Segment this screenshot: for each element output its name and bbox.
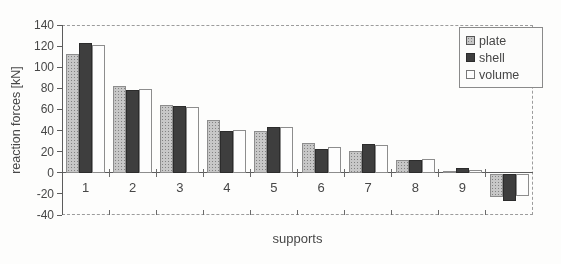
legend-item-plate: plate	[466, 32, 536, 49]
bar-plate-support-7	[349, 151, 362, 173]
y-axis-tick	[57, 67, 62, 68]
y-tick-label: 100	[16, 60, 54, 74]
x-axis-bottom-tick	[203, 210, 204, 215]
bar-plate-support-9	[443, 171, 456, 173]
x-axis-tick	[344, 169, 345, 177]
y-tick-label: 40	[16, 124, 54, 138]
legend-item-volume: volume	[466, 66, 536, 83]
bar-shell-support-6	[315, 149, 328, 173]
x-axis-tick	[203, 169, 204, 177]
y-axis-tick	[57, 130, 62, 131]
y-tick-label: -40	[16, 208, 54, 222]
x-axis-bottom-tick	[250, 210, 251, 215]
x-axis-bottom-tick	[109, 210, 110, 215]
bar-shell-support-10	[503, 174, 516, 201]
bar-volume-support-2	[139, 89, 152, 172]
bar-plate-support-5	[254, 131, 267, 173]
bar-volume-support-6	[328, 147, 341, 172]
bar-shell-support-7	[362, 144, 375, 173]
bar-volume-support-1	[92, 45, 105, 173]
bar-volume-support-10	[516, 174, 529, 196]
x-axis-bottom-tick	[156, 210, 157, 215]
y-tick-label: -20	[16, 187, 54, 201]
bar-shell-support-4	[220, 131, 233, 173]
y-axis-tick	[57, 88, 62, 89]
bar-volume-support-7	[375, 145, 388, 172]
bar-plate-support-3	[160, 105, 173, 173]
y-tick-label: 0	[16, 166, 54, 180]
y-tick-label: 80	[16, 81, 54, 95]
y-tick-label: 120	[16, 39, 54, 53]
x-tick-label: 3	[169, 181, 191, 195]
y-axis-tick	[57, 25, 62, 26]
y-axis-tick	[57, 193, 62, 194]
plate-swatch-icon	[466, 36, 475, 45]
bar-volume-support-8	[422, 159, 435, 173]
bar-shell-support-5	[267, 127, 280, 172]
x-axis-tick	[109, 169, 110, 177]
x-axis-bottom-tick	[485, 210, 486, 215]
y-axis-line	[62, 25, 63, 215]
bar-volume-support-5	[280, 127, 293, 172]
y-tick-label: 60	[16, 102, 54, 116]
x-axis-title: supports	[62, 231, 533, 246]
x-tick-label: 1	[75, 181, 97, 195]
bar-plate-support-6	[302, 143, 315, 173]
x-tick-label: 4	[216, 181, 238, 195]
x-tick-label: 9	[451, 181, 473, 195]
legend-label-plate: plate	[479, 34, 506, 48]
x-tick-label: 2	[122, 181, 144, 195]
x-axis-tick	[156, 169, 157, 177]
bar-shell-support-3	[173, 106, 186, 173]
legend-label-volume: volume	[479, 68, 519, 82]
x-tick-label: 8	[404, 181, 426, 195]
bar-volume-support-9	[469, 170, 482, 173]
y-axis-tick	[57, 109, 62, 110]
bar-plate-support-8	[396, 160, 409, 173]
legend-label-shell: shell	[479, 51, 505, 65]
shell-swatch-icon	[466, 53, 475, 62]
x-axis-tick	[485, 169, 486, 177]
x-axis-tick	[391, 169, 392, 177]
bar-volume-support-3	[186, 107, 199, 172]
x-tick-label: 6	[310, 181, 332, 195]
x-axis-tick	[250, 169, 251, 177]
y-tick-label: 20	[16, 145, 54, 159]
bar-plate-support-1	[66, 54, 79, 173]
bar-plate-support-2	[113, 86, 126, 173]
x-axis-tick	[297, 169, 298, 177]
volume-swatch-icon	[466, 70, 475, 79]
bar-shell-support-9	[456, 168, 469, 173]
y-axis-tick	[57, 46, 62, 47]
y-axis-tick	[57, 172, 62, 173]
x-axis-bottom-tick	[297, 210, 298, 215]
y-axis-tick	[57, 215, 62, 216]
bar-chart-figure: reaction forces [kN] supports plate shel…	[0, 0, 561, 264]
bar-volume-support-4	[233, 130, 246, 173]
legend-item-shell: shell	[466, 49, 536, 66]
y-tick-label: 140	[16, 18, 54, 32]
bar-shell-support-2	[126, 90, 139, 172]
x-axis-bottom-tick	[391, 210, 392, 215]
bar-shell-support-1	[79, 43, 92, 173]
plot-border-top	[62, 25, 533, 26]
bar-plate-support-10	[490, 174, 503, 197]
x-tick-label: 5	[263, 181, 285, 195]
x-axis-bottom-tick	[344, 210, 345, 215]
bar-plate-support-4	[207, 120, 220, 173]
y-axis-tick	[57, 151, 62, 152]
x-axis-bottom-tick	[438, 210, 439, 215]
bar-shell-support-8	[409, 160, 422, 173]
legend: plate shell volume	[459, 27, 543, 88]
x-axis-tick	[438, 169, 439, 177]
x-tick-label: 7	[357, 181, 379, 195]
